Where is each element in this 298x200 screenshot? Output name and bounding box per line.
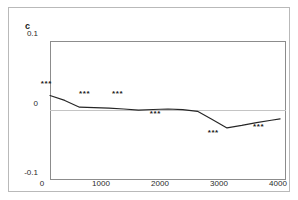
significance-stars: *** <box>253 123 264 130</box>
chart-screenshot: c 0.10-0.1 01000200030004000 ***********… <box>0 0 298 200</box>
x-tick-label: 0 <box>22 179 62 188</box>
y-tick-label: 0 <box>9 99 38 108</box>
data-series-line <box>50 96 280 128</box>
significance-stars: *** <box>41 80 52 87</box>
x-tick-label: 3000 <box>199 179 239 188</box>
y-tick-label: -0.1 <box>9 168 38 177</box>
significance-stars: *** <box>208 129 219 136</box>
figure-frame: c 0.10-0.1 01000200030004000 ***********… <box>8 7 290 192</box>
significance-stars: *** <box>79 90 90 97</box>
y-tick-label: 0.1 <box>9 29 38 38</box>
x-tick-label: 1000 <box>81 179 121 188</box>
y-axis-ticks: 0.10-0.1 <box>9 8 47 200</box>
significance-stars: *** <box>150 110 161 117</box>
x-tick-label: 4000 <box>258 179 298 188</box>
x-tick-label: 2000 <box>140 179 180 188</box>
significance-stars: *** <box>112 90 123 97</box>
plot-canvas <box>50 41 286 180</box>
